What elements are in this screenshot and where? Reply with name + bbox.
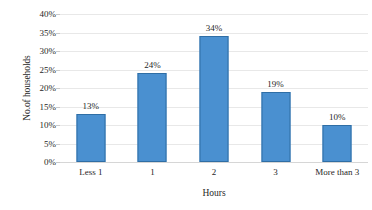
- axis-baseline: [60, 162, 368, 163]
- y-axis-tick-labels: 0%5%10%15%20%25%30%35%40%: [28, 14, 58, 162]
- x-axis-tick-label: Less 1: [79, 165, 102, 179]
- bar[interactable]: [261, 92, 290, 162]
- bar-slot: 10%: [306, 14, 368, 162]
- bar-data-label: 13%: [83, 101, 100, 111]
- y-axis-tick-mark: [56, 162, 60, 163]
- bar[interactable]: [323, 125, 352, 162]
- bar-data-label: 24%: [144, 60, 161, 70]
- y-axis-tick-label: 25%: [40, 65, 57, 74]
- y-axis-tick-label: 30%: [40, 47, 57, 56]
- x-axis-tick-label: 1: [150, 165, 155, 179]
- bar-series: 13%24%34%19%10%: [60, 14, 368, 162]
- x-axis-tick-label: 2: [212, 165, 217, 179]
- bar-slot: 34%: [183, 14, 245, 162]
- x-axis-tick-labels: Less 1123More than 3: [60, 165, 368, 181]
- bar-data-label: 19%: [267, 79, 284, 89]
- y-axis-tick-label: 20%: [40, 84, 57, 93]
- y-axis-tick-label: 10%: [40, 121, 57, 130]
- y-axis-tick-label: 0%: [44, 158, 56, 167]
- y-axis-tick-label: 40%: [40, 10, 57, 19]
- y-axis-tick-label: 15%: [40, 102, 57, 111]
- bar-slot: 19%: [245, 14, 307, 162]
- bar-slot: 13%: [60, 14, 122, 162]
- x-axis-tick-label: More than 3: [315, 165, 359, 179]
- bar-chart: No.of households 0%5%10%15%20%25%30%35%4…: [0, 0, 372, 210]
- x-axis-tick-label: 3: [273, 165, 278, 179]
- bar[interactable]: [138, 73, 167, 162]
- x-axis-title: Hours: [60, 186, 368, 200]
- bar-slot: 24%: [122, 14, 184, 162]
- bar[interactable]: [76, 114, 105, 162]
- y-axis-tick-label: 35%: [40, 28, 57, 37]
- bar[interactable]: [199, 36, 228, 162]
- plot-area: 13%24%34%19%10%: [60, 14, 368, 162]
- y-axis-tick-label: 5%: [44, 139, 56, 148]
- bar-data-label: 34%: [206, 23, 223, 33]
- bar-data-label: 10%: [329, 112, 346, 122]
